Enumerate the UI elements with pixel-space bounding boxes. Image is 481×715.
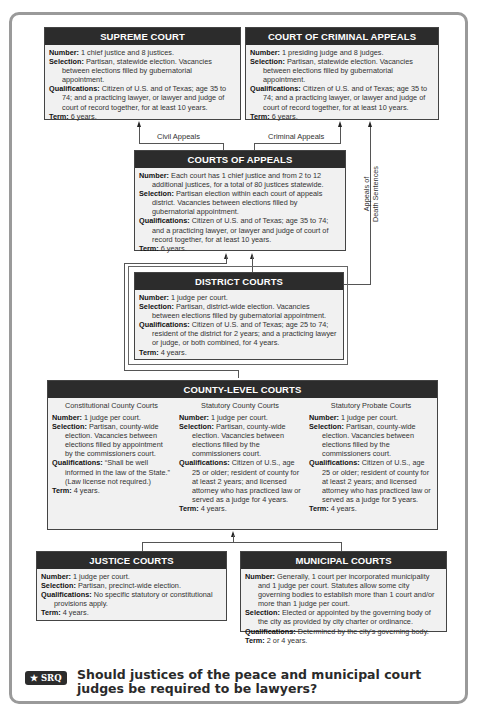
- number-row: Number: 1 chief justice and 8 justices.: [49, 48, 236, 57]
- box-title: SUPREME COURT: [45, 28, 240, 45]
- number-row: Number: 1 judge per court.: [41, 572, 222, 581]
- srq-badge: ★ SRQ: [25, 671, 67, 685]
- connector-line: [223, 143, 224, 150]
- qualifications-row: Qualifications: Citizen of U.S., age 25 …: [309, 458, 433, 503]
- selection-row: Selection: Partisan, county-wide electio…: [309, 422, 433, 458]
- selection-row: Selection: Partisan, precinct-wide elect…: [41, 581, 222, 590]
- term-row: Term: 2 or 4 years.: [245, 636, 442, 645]
- box-title: COURT OF CRIMINAL APPEALS: [246, 28, 438, 45]
- selection-row: Selection: Partisan, district-wide elect…: [139, 302, 339, 320]
- term-row: Term: 4 years.: [41, 608, 222, 617]
- box-title: COUNTY-LEVEL COURTS: [48, 381, 437, 398]
- column-subtitle: Statutory Probate Courts: [305, 398, 437, 410]
- number-row: Number: Generally, 1 court per incorpora…: [245, 572, 442, 608]
- connector-line: [254, 143, 341, 144]
- constitutional-county-courts: Constitutional County Courts Number: 1 j…: [48, 398, 175, 498]
- criminal-appeals-box: COURT OF CRIMINAL APPEALS Number: 1 pres…: [245, 27, 439, 120]
- selection-row: Selection: Elected or appointed by the g…: [245, 608, 442, 626]
- term-row: Term: 4 years.: [139, 348, 339, 357]
- civil-appeals-label: Civil Appeals: [157, 132, 200, 141]
- death-sentences-label: Appeals ofDeath Sentences: [362, 166, 380, 222]
- term-row: Term: 4 years.: [52, 486, 171, 495]
- connector-line: [226, 256, 227, 263]
- column-subtitle: Constitutional County Courts: [48, 398, 175, 410]
- criminal-appeals-label: Criminal Appeals: [268, 132, 324, 141]
- courts-of-appeals-box: COURTS OF APPEALS Number: Each court has…: [134, 150, 346, 251]
- selection-row: Selection: Partisan, county-wide electio…: [179, 422, 301, 458]
- arrow-up-icon: [368, 121, 372, 127]
- qualifications-row: Qualifications: Citizen of U.S. and of T…: [49, 84, 236, 111]
- box-title: DISTRICT COURTS: [135, 273, 343, 290]
- box-title: COURTS OF APPEALS: [135, 151, 345, 168]
- selection-row: Selection: Partisan election within each…: [139, 189, 341, 216]
- qualifications-row: Qualifications: No specific statutory or…: [41, 590, 222, 608]
- connector-line: [254, 143, 255, 150]
- arrow-up-icon: [338, 121, 342, 127]
- connector-line: [238, 370, 239, 378]
- connector-line: [124, 263, 125, 371]
- number-row: Number: 1 judge per court.: [179, 413, 301, 422]
- qualifications-row: Qualifications: Citizen of U.S. and of T…: [139, 320, 339, 347]
- district-courts-box: DISTRICT COURTS Number: 1 judge per cour…: [134, 272, 344, 360]
- qualifications-row: Qualifications: Determined by the city's…: [245, 627, 442, 636]
- county-level-courts-box: COUNTY-LEVEL COURTS Constitutional Count…: [47, 380, 438, 530]
- connector-line: [344, 284, 371, 285]
- connector-line: [124, 370, 238, 371]
- term-row: Term: 4 years.: [309, 504, 433, 513]
- term-row: Term: 6 years.: [250, 112, 434, 121]
- box-title: MUNICIPAL COURTS: [241, 552, 446, 569]
- selection-row: Selection: Partisan, statewide election.…: [49, 57, 236, 84]
- number-row: Number: 1 judge per court.: [139, 293, 339, 302]
- number-row: Number: Each court has 1 chief justice a…: [139, 171, 341, 189]
- connector-line: [233, 535, 234, 542]
- qualifications-row: Qualifications: Citizen of U.S. and of T…: [139, 216, 341, 243]
- column-subtitle: Statutory County Courts: [175, 398, 305, 410]
- qualifications-row: Qualifications: “Shall be well informed …: [52, 458, 171, 485]
- selection-row: Selection: Partisan, statewide election.…: [250, 57, 434, 84]
- srq-question: Should justices of the peace and municip…: [77, 668, 457, 695]
- qualifications-row: Qualifications: Citizen of U.S., age 25 …: [179, 458, 301, 503]
- number-row: Number: 1 presiding judge and 8 judges.: [250, 48, 434, 57]
- connector-line: [124, 263, 227, 264]
- municipal-courts-box: MUNICIPAL COURTS Number: Generally, 1 co…: [240, 551, 447, 632]
- term-row: Term: 6 years.: [49, 112, 236, 121]
- number-row: Number: 1 judge per court.: [52, 413, 171, 422]
- box-title: JUSTICE COURTS: [37, 552, 226, 569]
- qualifications-row: Qualifications: Citizen of U.S. and of T…: [250, 84, 434, 111]
- number-row: Number: 1 judge per court.: [309, 413, 433, 422]
- justice-courts-box: JUSTICE COURTS Number: 1 judge per court…: [36, 551, 227, 621]
- term-row: Term: 6 years.: [139, 244, 341, 253]
- arrow-up-icon: [137, 121, 141, 127]
- connector-line: [142, 542, 143, 551]
- supreme-court-box: SUPREME COURT Number: 1 chief justice an…: [44, 27, 241, 120]
- connector-line: [341, 542, 342, 551]
- selection-row: Selection: Partisan, county-wide electio…: [52, 422, 171, 458]
- connector-line: [142, 542, 342, 543]
- connector-line: [139, 143, 223, 144]
- statutory-county-courts: Statutory County Courts Number: 1 judge …: [175, 398, 305, 516]
- term-row: Term: 4 years.: [179, 504, 301, 513]
- statutory-probate-courts: Statutory Probate Courts Number: 1 judge…: [305, 398, 437, 516]
